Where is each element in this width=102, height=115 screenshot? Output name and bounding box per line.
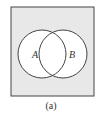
set-b-label: B: [69, 49, 75, 60]
figure-caption: (a): [0, 100, 102, 111]
set-a-label: A: [31, 49, 39, 60]
venn-diagram: A B: [0, 0, 102, 100]
